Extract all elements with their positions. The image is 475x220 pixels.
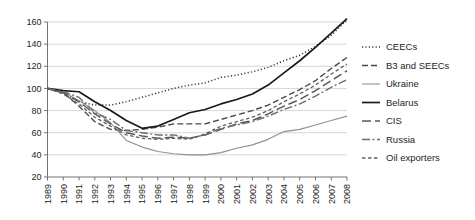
x-tick-label: 2006 [311,184,321,204]
series-line-belarus [48,19,348,129]
y-axis-tick-labels: 20406080100120140160 [26,17,41,182]
y-tick-label: 100 [26,84,41,94]
x-tick-label: 2005 [295,184,305,204]
x-tick-label: 1990 [59,184,69,204]
y-tick-label: 40 [31,150,41,160]
y-tick-label: 20 [31,172,41,182]
x-tick-label: 1997 [169,184,179,204]
y-axis-ticks [44,22,48,177]
x-axis-tick-labels: 1989199019911992199319941995199619971998… [43,184,353,204]
x-tick-label: 1995 [137,184,147,204]
x-tick-label: 1992 [90,184,100,204]
legend-label-b3-and-seecs: B3 and SEECs [386,60,450,71]
y-tick-label: 80 [31,106,41,116]
x-tick-label: 2002 [248,184,258,204]
x-tick-label: 1993 [106,184,116,204]
series-line-oil-exporters [48,64,348,139]
data-series-group [48,19,348,155]
legend-label-russia: Russia [386,134,416,145]
series-line-b3-and-seecs [48,57,348,130]
y-tick-label: 160 [26,17,41,27]
legend-label-ukraine: Ukraine [386,78,419,89]
legend-label-cis: CIS [386,115,402,126]
y-tick-label: 120 [26,61,41,71]
y-tick-label: 60 [31,128,41,138]
x-tick-label: 1994 [122,184,132,204]
x-tick-label: 1989 [43,184,53,204]
x-tick-label: 2008 [342,184,352,204]
x-tick-label: 1996 [153,184,163,204]
x-tick-label: 2001 [232,184,242,204]
x-tick-label: 1991 [74,184,84,204]
x-tick-label: 2004 [279,184,289,204]
x-tick-label: 2000 [216,184,226,204]
chart-legend: CEECsB3 and SEECsUkraineBelarusCISRussia… [362,41,450,163]
y-tick-label: 140 [26,39,41,49]
x-tick-label: 1999 [201,184,211,204]
x-tick-label: 1998 [185,184,195,204]
legend-label-oil-exporters: Oil exporters [386,152,440,163]
legend-label-ceecs: CEECs [386,41,417,52]
chart-container: 20406080100120140160 1989199019911992199… [0,0,475,220]
x-tick-label: 2007 [327,184,337,204]
x-tick-label: 2003 [264,184,274,204]
x-axis-ticks [48,177,348,181]
line-chart: 20406080100120140160 1989199019911992199… [0,0,475,220]
legend-label-belarus: Belarus [386,97,418,108]
